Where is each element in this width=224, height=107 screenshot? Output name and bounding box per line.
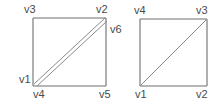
left-label-v5: v5 (99, 89, 111, 100)
right-label-v2: v2 (196, 89, 208, 100)
right-square-group (140, 19, 207, 86)
left-square-group (33, 18, 107, 86)
left-label-v6: v6 (110, 24, 122, 35)
left-label-v2: v2 (96, 4, 108, 15)
right-square-diagonal (141, 20, 206, 85)
right-label-v4: v4 (134, 5, 146, 16)
left-label-v3: v3 (24, 4, 36, 15)
right-label-v3: v3 (196, 5, 208, 16)
diagram-canvas: v3 v2 v6 v1 v4 v5 v4 v3 v1 v2 (0, 0, 224, 107)
left-label-v1: v1 (19, 74, 31, 85)
right-label-v1: v1 (135, 89, 147, 100)
left-square-diagonal-upper (34, 18, 105, 84)
left-label-v4: v4 (33, 89, 45, 100)
left-square-diagonal-lower (37, 21, 107, 86)
